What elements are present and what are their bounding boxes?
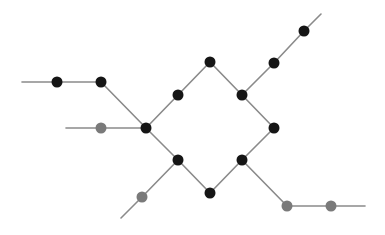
graph-node-dark: [205, 57, 216, 68]
graph-node-gray: [137, 192, 148, 203]
graph-edge: [178, 62, 210, 95]
graph-node-gray: [96, 123, 107, 134]
graph-node-dark: [52, 77, 63, 88]
graph-edge: [178, 160, 210, 193]
graph-edge: [210, 62, 242, 95]
graph-edge: [101, 82, 146, 128]
graph-svg: [0, 0, 385, 235]
graph-edge: [242, 128, 274, 160]
graph-edge: [242, 160, 287, 206]
graph-node-dark: [269, 58, 280, 69]
graph-edge: [242, 63, 274, 95]
graph-node-dark: [173, 155, 184, 166]
graph-diagram: [0, 0, 385, 235]
graph-node-dark: [173, 90, 184, 101]
graph-node-dark: [299, 26, 310, 37]
graph-node-dark: [141, 123, 152, 134]
graph-edge: [146, 128, 178, 160]
graph-node-dark: [237, 90, 248, 101]
graph-edge: [274, 31, 304, 63]
graph-node-dark: [237, 155, 248, 166]
graph-node-dark: [96, 77, 107, 88]
graph-node-gray: [326, 201, 337, 212]
edge-layer: [22, 14, 365, 218]
graph-edge: [242, 95, 274, 128]
node-layer: [52, 26, 337, 212]
graph-edge: [146, 95, 178, 128]
graph-edge: [142, 160, 178, 197]
graph-node-dark: [205, 188, 216, 199]
graph-node-gray: [282, 201, 293, 212]
graph-node-dark: [269, 123, 280, 134]
graph-edge: [210, 160, 242, 193]
